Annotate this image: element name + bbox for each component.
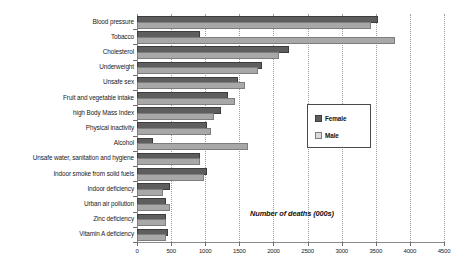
category-label: Cholesterol [2,48,134,55]
x-tick-label: 1500 [233,248,246,254]
bar-row: Unsafe sex [137,75,444,90]
x-tick-label: 3000 [335,248,348,254]
x-tick-label: 2500 [301,248,314,254]
bar-row: Physical inactivity [137,120,444,135]
bar-chart: 050010001500200025003000350040004500 Blo… [0,0,472,279]
x-tick [239,242,240,246]
chart-legend: Female Male [307,104,371,148]
category-label: Blood pressure [2,18,134,25]
bar-row: Cholesterol [137,44,444,59]
legend-label-male: Male [325,132,339,139]
bar-row: Indoor smoke from solid fuels [137,166,444,181]
x-tick-label: 4500 [438,248,451,254]
legend-item-female: Female [315,115,346,122]
x-tick [342,242,343,246]
category-label: Urban air pollution [2,200,134,207]
x-tick [273,242,274,246]
bar-male [137,189,163,196]
bar-row: Underweight [137,60,444,75]
category-label: Alcohol [2,139,134,146]
bar-male [137,67,258,74]
x-tick [444,242,445,246]
bar-male [137,52,279,59]
bar-male [137,174,204,181]
bar-male [137,113,214,120]
x-tick [137,242,138,246]
x-tick-label: 4000 [404,248,417,254]
x-tick-label: 2000 [267,248,280,254]
bar-male [137,219,166,226]
legend-swatch-female-icon [315,115,322,122]
x-tick-label: 500 [166,248,175,254]
bar-row: Blood pressure [137,14,444,29]
bar-male [137,234,166,241]
bar-row: Alcohol [137,136,444,151]
legend-item-male: Male [315,132,339,139]
bar-male [137,204,170,211]
legend-label-female: Female [325,115,346,122]
category-label: Indoor smoke from solid fuels [2,170,134,177]
x-tick-label: 1000 [199,248,212,254]
category-label: Unsafe water, sanitation and hygiene [2,154,134,161]
x-tick [171,242,172,246]
bar-row: high Body Mass Index [137,105,444,120]
bar-male [137,22,371,29]
bar-row: Unsafe water, sanitation and hygiene [137,151,444,166]
x-axis-line [137,242,444,243]
x-tick-label: 0 [135,248,138,254]
bar-male [137,143,248,150]
bar-row: Fruit and vegetable intake [137,90,444,105]
bar-male [137,158,200,165]
x-tick [376,242,377,246]
category-label: Fruit and vegetable intake [2,94,134,101]
category-label: Zinc deficiency [2,215,134,222]
x-axis-title: Number of deaths (000s) [250,209,334,218]
category-label: high Body Mass Index [2,109,134,116]
bar-row: Vitamin A deficiency [137,227,444,242]
x-tick [308,242,309,246]
bar-male [137,82,245,89]
category-label: Vitamin A deficiency [2,230,134,237]
category-label: Tobacco [2,33,134,40]
gridline [444,14,445,242]
x-tick [410,242,411,246]
category-label: Underweight [2,63,134,70]
category-label: Physical inactivity [2,124,134,131]
x-tick-label: 3500 [369,248,382,254]
bar-male [137,98,235,105]
bar-male [137,128,211,135]
category-label: Unsafe sex [2,78,134,85]
legend-swatch-male-icon [315,132,322,139]
category-label: Indoor deficiency [2,185,134,192]
x-tick [205,242,206,246]
bar-row: Indoor deficiency [137,181,444,196]
bar-row: Tobacco [137,29,444,44]
bar-male [137,37,395,44]
y-tick [133,242,137,243]
